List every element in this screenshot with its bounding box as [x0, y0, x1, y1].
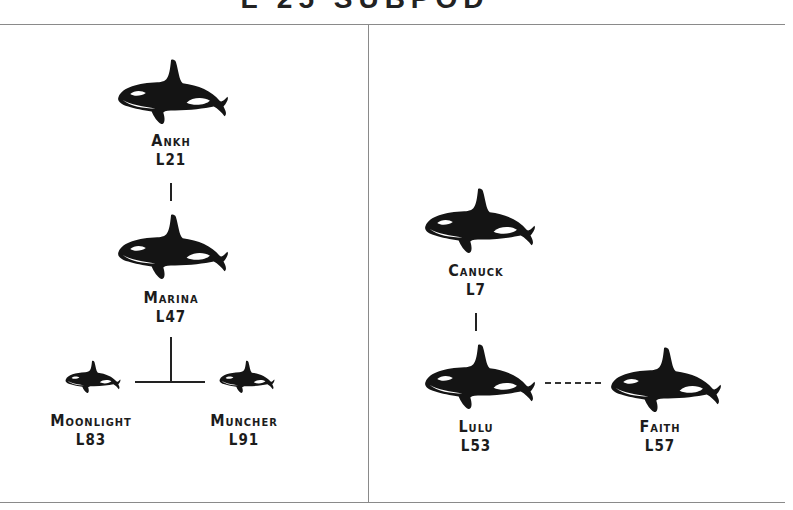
orca-icon — [112, 58, 234, 126]
orca-icon — [419, 343, 541, 411]
whale-id: L7 — [448, 283, 503, 298]
diagram-title: L 25 SUBPOD — [0, 0, 730, 15]
top-rule — [0, 24, 785, 25]
whale-name: Marina — [143, 290, 198, 306]
whale-id: L57 — [639, 439, 680, 454]
orca-icon — [605, 346, 727, 414]
lineage-connector — [170, 183, 172, 201]
whale-label-muncher: Muncher L91 — [210, 413, 278, 448]
whale-id: L47 — [143, 310, 198, 325]
whale-name: Ankh — [151, 133, 190, 149]
panel-divider — [368, 24, 369, 502]
whale-label-lulu: Lulu L53 — [458, 419, 493, 454]
whale-label-moonlight: Moonlight L83 — [50, 413, 132, 448]
whale-id: L91 — [210, 433, 278, 448]
whale-id: L53 — [458, 439, 493, 454]
whale-id: L21 — [151, 153, 190, 168]
lineage-connector — [170, 337, 172, 382]
whale-name: Lulu — [458, 419, 493, 435]
orca-icon — [112, 213, 234, 281]
whale-label-faith: Faith L57 — [639, 419, 680, 454]
whale-id: L83 — [50, 433, 132, 448]
whale-name: Moonlight — [50, 413, 132, 429]
association-connector — [545, 382, 601, 384]
orca-icon — [217, 360, 277, 394]
whale-label-canuck: Canuck L7 — [448, 263, 503, 298]
bottom-rule — [0, 502, 785, 503]
whale-name: Faith — [639, 419, 680, 435]
whale-label-marina: Marina L47 — [143, 290, 198, 325]
sibling-connector — [135, 381, 205, 383]
lineage-connector — [475, 313, 477, 331]
whale-label-ankh: Ankh L21 — [151, 133, 190, 168]
whale-name: Canuck — [448, 263, 503, 279]
orca-icon — [63, 360, 123, 394]
orca-icon — [419, 187, 541, 255]
whale-name: Muncher — [210, 413, 278, 429]
